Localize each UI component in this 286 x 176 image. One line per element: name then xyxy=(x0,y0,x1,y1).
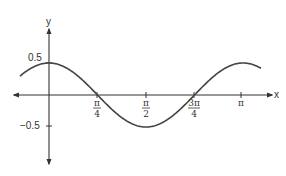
svg-text:π: π xyxy=(94,98,100,108)
y-tick-label-neg: −0.5 xyxy=(20,120,40,131)
svg-text:π: π xyxy=(238,98,244,108)
svg-text:4: 4 xyxy=(191,109,197,119)
x-tick-pi-over-4: π 4 xyxy=(93,92,101,119)
cosine-graph: x y 0.5 −0.5 π 4 π 2 3π 4 π xyxy=(0,0,286,176)
y-axis-label: y xyxy=(46,16,51,27)
x-tick-pi-over-2: π 2 xyxy=(142,92,150,119)
svg-text:4: 4 xyxy=(94,109,100,119)
svg-text:π: π xyxy=(143,98,149,108)
svg-text:2: 2 xyxy=(143,109,149,119)
x-tick-pi: π xyxy=(238,92,244,108)
x-axis-label: x xyxy=(274,89,279,100)
y-tick-label-pos: 0.5 xyxy=(28,52,42,63)
